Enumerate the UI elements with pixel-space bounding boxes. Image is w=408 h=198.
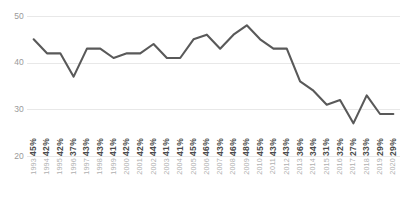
x-axis-label: 2014 xyxy=(309,158,316,175)
x-axis-label: 1995 xyxy=(56,158,63,175)
x-axis-label: 2019 xyxy=(376,158,383,175)
data-label: 36% xyxy=(296,138,305,156)
data-label: 33% xyxy=(362,138,371,156)
data-label: 34% xyxy=(309,138,318,156)
x-axis-label: 2016 xyxy=(336,158,343,175)
data-label: 32% xyxy=(336,138,345,156)
x-axis-label: 1996 xyxy=(70,158,77,175)
data-label: 41% xyxy=(176,138,185,156)
y-tick-label: 20 xyxy=(0,152,24,161)
data-label: 43% xyxy=(269,138,278,156)
x-axis-label-row: 1993199419951996199719981999200020012002… xyxy=(27,158,400,196)
y-tick-label: 40 xyxy=(0,58,24,67)
x-axis-label: 2000 xyxy=(123,158,130,175)
data-label: 27% xyxy=(349,138,358,156)
data-label: 46% xyxy=(202,138,211,156)
data-label: 43% xyxy=(216,138,225,156)
data-label: 42% xyxy=(136,138,145,156)
x-axis-label: 2004 xyxy=(176,158,183,175)
x-axis-label: 2013 xyxy=(296,158,303,175)
data-label: 41% xyxy=(162,138,171,156)
data-label: 46% xyxy=(229,138,238,156)
x-axis-label: 1997 xyxy=(83,158,90,175)
x-axis-label: 2009 xyxy=(243,158,250,175)
y-tick-label: 30 xyxy=(0,105,24,114)
data-label: 42% xyxy=(122,138,131,156)
x-axis-label: 2010 xyxy=(256,158,263,175)
gridline xyxy=(27,156,400,157)
x-axis-label: 2011 xyxy=(269,158,276,174)
x-axis-label: 2001 xyxy=(136,158,143,175)
data-label-row: 45%42%42%37%43%43%41%42%42%44%41%41%45%4… xyxy=(27,112,400,156)
data-label: 29% xyxy=(376,138,385,156)
x-axis-label: 1993 xyxy=(30,158,37,175)
x-axis-label: 2018 xyxy=(363,158,370,175)
line-chart: 50 40 30 20 45%42%42%37%43%43%41%42%42%4… xyxy=(0,0,408,198)
x-axis-label: 2008 xyxy=(229,158,236,175)
x-axis-label: 2006 xyxy=(203,158,210,175)
x-axis-label: 2002 xyxy=(150,158,157,175)
data-label: 43% xyxy=(82,138,91,156)
data-label: 41% xyxy=(109,138,118,156)
data-label: 43% xyxy=(96,138,105,156)
y-tick-label: 50 xyxy=(0,12,24,21)
data-label: 42% xyxy=(56,138,65,156)
data-label: 48% xyxy=(242,138,251,156)
x-axis-label: 2015 xyxy=(323,158,330,175)
data-label: 37% xyxy=(69,138,78,156)
x-axis-label: 2007 xyxy=(216,158,223,175)
data-label: 31% xyxy=(322,138,331,156)
x-axis-label: 2012 xyxy=(283,158,290,175)
x-axis-label: 1998 xyxy=(96,158,103,175)
data-label: 29% xyxy=(389,138,398,156)
x-axis-label: 2003 xyxy=(163,158,170,175)
data-label: 43% xyxy=(282,138,291,156)
data-label: 45% xyxy=(189,138,198,156)
data-label: 45% xyxy=(256,138,265,156)
x-axis-label: 1999 xyxy=(110,158,117,175)
x-axis-label: 2017 xyxy=(349,158,356,175)
x-axis-label: 2005 xyxy=(190,158,197,175)
x-axis-label: 1994 xyxy=(43,158,50,175)
data-label: 45% xyxy=(29,138,38,156)
data-label: 44% xyxy=(149,138,158,156)
x-axis-label: 2020 xyxy=(389,158,396,175)
data-label: 42% xyxy=(42,138,51,156)
